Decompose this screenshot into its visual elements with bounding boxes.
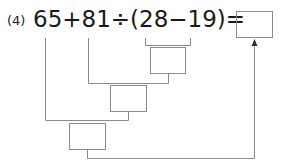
calculation-order-diagram xyxy=(0,0,281,166)
final-answer-box[interactable] xyxy=(237,12,273,38)
step2-answer-box[interactable] xyxy=(111,86,147,112)
division-connector xyxy=(89,38,169,84)
final-connector xyxy=(88,42,255,159)
arrow-up-icon xyxy=(252,39,258,46)
step1-answer-box[interactable] xyxy=(151,48,186,74)
step3-answer-box[interactable] xyxy=(70,124,106,150)
subtraction-bracket xyxy=(146,38,191,46)
addition-connector xyxy=(46,38,129,121)
